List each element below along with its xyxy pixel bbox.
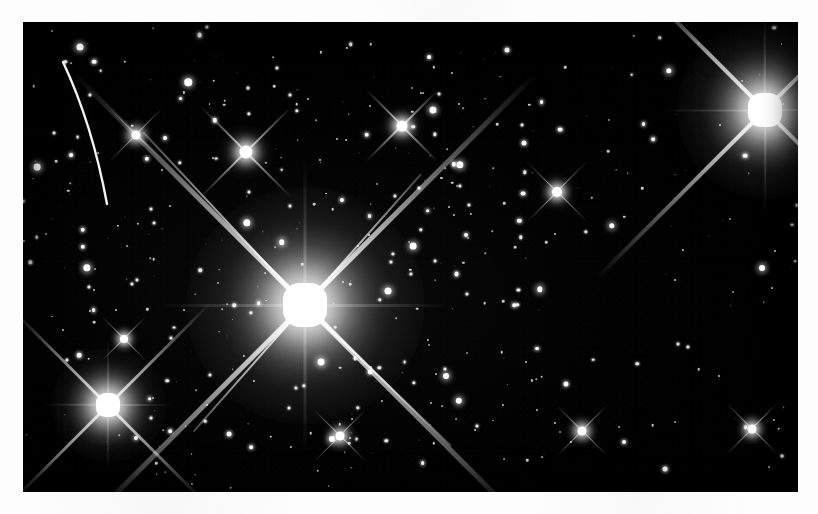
star-field-photograph <box>23 22 798 492</box>
page-root <box>0 0 818 514</box>
sky-background <box>23 22 798 492</box>
